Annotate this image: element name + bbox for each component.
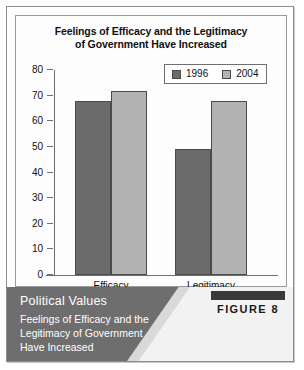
legend-swatch-2004 [222,70,231,79]
figure-container: Feelings of Efficacy and the Legitimacy … [6,6,294,362]
caption-subtitle-line-2: Legitimacy of Government [20,326,200,340]
legend-label-1996: 1996 [186,69,208,79]
caption-heading: Political Values [20,294,107,308]
legend-label-2004: 2004 [236,69,258,79]
x-axis-category-labels: EfficacyLegitimacy [16,16,286,286]
legend-item-2004: 2004 [222,69,258,79]
caption-subtitle: Feelings of Efficacy and the Legitimacy … [20,312,200,354]
legend-swatch-1996 [172,70,181,79]
figure-caption-band: Political Values Feelings of Efficacy an… [7,287,293,361]
caption-subtitle-line-1: Feelings of Efficacy and the [20,312,200,326]
chart-legend: 1996 2004 [164,64,267,84]
chart-card: Feelings of Efficacy and the Legitimacy … [15,15,287,287]
legend-item-1996: 1996 [172,69,208,79]
figure-badge-label: FIGURE 8 [211,303,285,315]
figure-number-badge: FIGURE 8 [211,291,285,315]
figure-badge-rule [211,291,285,300]
caption-subtitle-line-3: Have Increased [20,340,200,354]
